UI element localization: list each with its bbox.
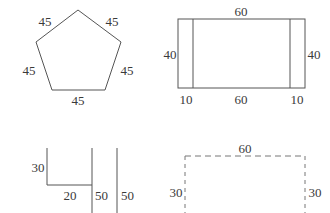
pentagon-label-right: 45 xyxy=(121,64,134,77)
ushape-left-and-base xyxy=(47,148,92,185)
geometry-drawing xyxy=(0,0,330,213)
rectangle-label-bottom-right: 10 xyxy=(291,93,304,106)
ushape-shape xyxy=(47,148,117,213)
ushape-label-base: 20 xyxy=(64,189,77,202)
dashed-label-top: 60 xyxy=(239,142,252,155)
ushape-label-right-vertical: 50 xyxy=(121,189,134,202)
dashed-label-right: 30 xyxy=(309,186,322,199)
rectangle-label-bottom-left: 10 xyxy=(180,93,193,106)
rectangle-label-left: 40 xyxy=(164,48,177,61)
pentagon-label-bottom: 45 xyxy=(72,94,85,107)
figure-sheet: 45 45 45 45 45 60 40 40 10 60 10 30 20 5… xyxy=(0,0,330,213)
pentagon-label-top-right: 45 xyxy=(106,15,119,28)
rectangle-label-right: 40 xyxy=(308,48,321,61)
rectangle-shape xyxy=(178,19,305,88)
rectangle-label-bottom-middle: 60 xyxy=(235,93,248,106)
rectangle-label-top: 60 xyxy=(235,5,248,18)
dashed-label-left: 30 xyxy=(170,186,183,199)
dashed-shape xyxy=(185,156,305,213)
ushape-label-middle-vertical: 50 xyxy=(95,189,108,202)
pentagon-label-left: 45 xyxy=(23,64,36,77)
rectangle-outline xyxy=(178,19,305,88)
ushape-label-left-height: 30 xyxy=(32,161,45,174)
pentagon-label-top-left: 45 xyxy=(39,15,52,28)
